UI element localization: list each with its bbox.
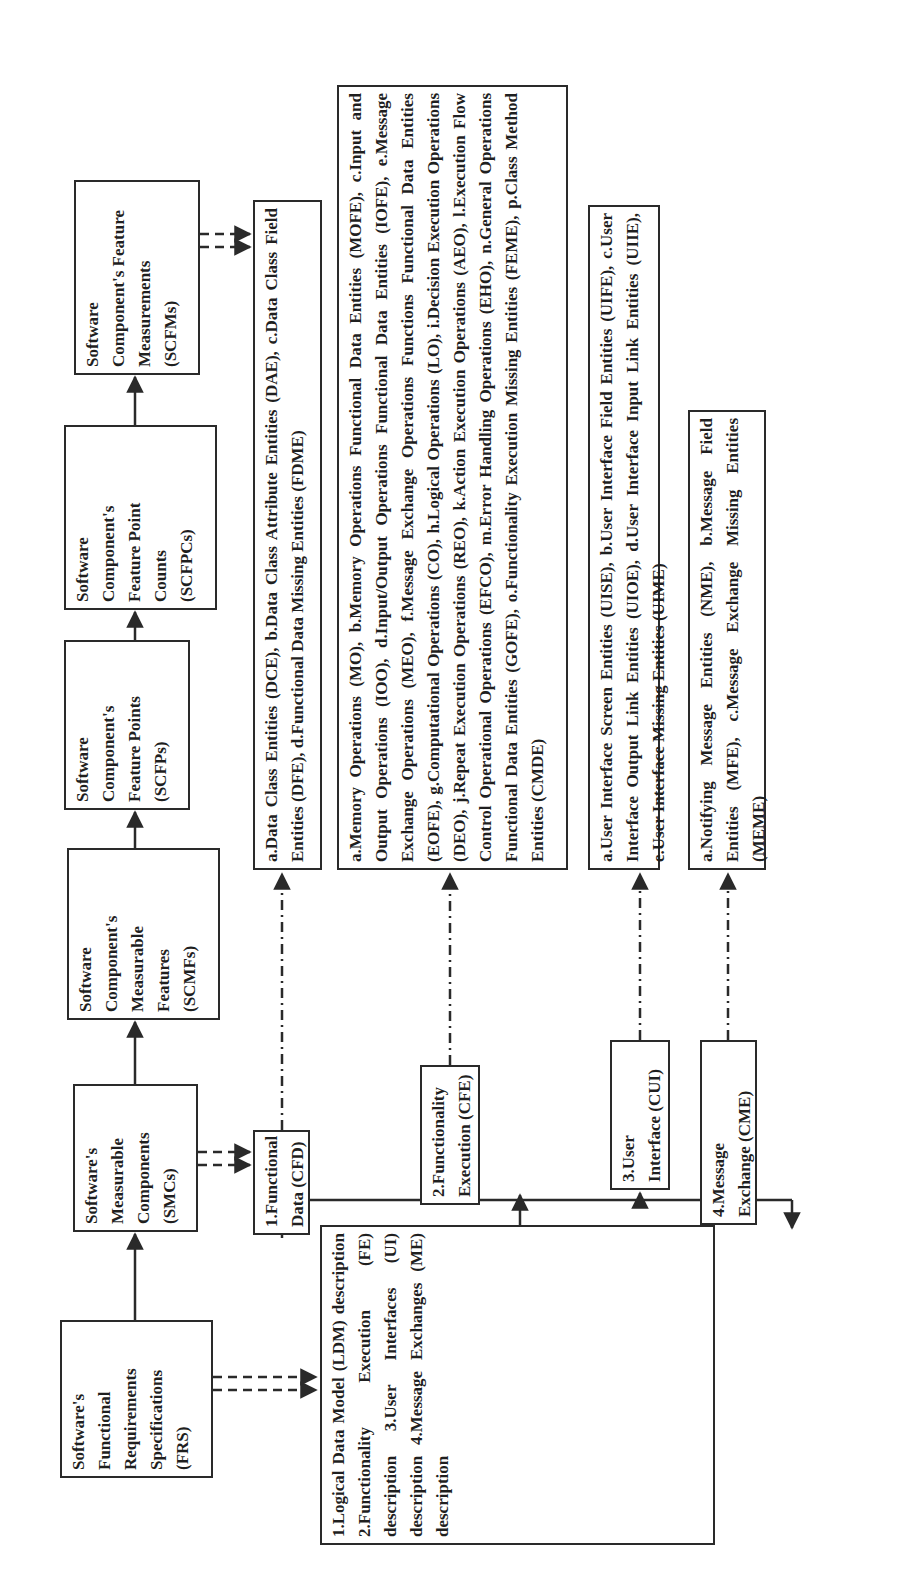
cfe-entities-box: a.Memory Operations (MO), b.Memory Opera… [337,85,568,870]
scmfs-line: Software [73,856,99,1012]
cfe-entities-text: a.Memory Operations (MO), b.Memory Opera… [346,93,547,862]
scfpcs-box: Software Component's Feature Point Count… [64,425,217,610]
scfps-line: (SCFPs) [148,648,174,802]
cfe-line: Execution (CFE) [452,1073,478,1197]
scfpcs-line: Counts [148,433,174,602]
scfps-line: Feature Points [122,648,148,802]
scmfs-line: (SCMFs) [177,856,203,1012]
scfps-line: Component's [96,648,122,802]
scmfs-box: Software Component's Measurable Features… [67,848,220,1020]
scfpcs-line: Component's [96,433,122,602]
smcs-line: Measurable [105,1092,131,1224]
cfd-entities-box: a.Data Class Entities (DCE), b.Data Clas… [253,200,322,870]
scfps-line: Software [70,648,96,802]
scfpcs-line: Feature Point [122,433,148,602]
cfd-box: 1.Functional Data (CFD) [253,1130,310,1235]
cui-box: 3.User Interface (CUI) [610,1040,670,1190]
smcs-line: Software's [79,1092,105,1224]
frs-line: (FRS) [170,1328,196,1470]
scfps-box: Software Component's Feature Points (SCF… [64,640,190,810]
cfd-line: 1.Functional [259,1138,285,1227]
frs-line: Requirements [118,1328,144,1470]
scfms-line: (SCFMs) [158,188,184,367]
frs-contents-box: 1.Logical Data Model (LDM) description 2… [320,1225,715,1545]
scfms-box: Software Component's Feature Measurement… [74,180,200,375]
frs-line: Specifications [144,1328,170,1470]
scfms-line: Measurements [132,188,158,367]
cme-line: Exchange (CME) [732,1048,758,1217]
frs-line: Software's [66,1328,92,1470]
cui-entities-box: a.User Interface Screen Entities (UISE),… [588,205,660,870]
scfpcs-line: (SCFPCs) [174,433,200,602]
scfpcs-line: Software [70,433,96,602]
cui-line: 3.User [616,1048,642,1182]
diagram-canvas: Software's Functional Requirements Speci… [0,0,904,1595]
scmfs-line: Features [151,856,177,1012]
scmfs-line: Component's [99,856,125,1012]
smcs-line: Components [131,1092,157,1224]
scfms-line: Software [80,188,106,367]
cme-line: 4.Message [706,1048,732,1217]
frs-line: Functional [92,1328,118,1470]
cfe-box: 2.Functionality Execution (CFE) [420,1065,480,1205]
cme-box: 4.Message Exchange (CME) [700,1040,757,1225]
cui-line: Interface (CUI) [642,1048,668,1182]
smcs-line: (SMCs) [157,1092,183,1224]
cme-entities-text: a.Notifying Message Entities (NME), b.Me… [697,418,768,862]
frs-box: Software's Functional Requirements Speci… [60,1320,213,1478]
cfd-entities-text: a.Data Class Entities (DCE), b.Data Clas… [262,208,307,862]
cui-entities-text: a.User Interface Screen Entities (UISE),… [597,213,668,862]
cme-entities-box: a.Notifying Message Entities (NME), b.Me… [688,410,766,870]
smcs-box: Software's Measurable Components (SMCs) [73,1084,198,1232]
cfd-line: Data (CFD) [285,1138,311,1227]
frs-contents-text: 1.Logical Data Model (LDM) description 2… [329,1233,452,1537]
cfe-line: 2.Functionality [426,1073,452,1197]
scmfs-line: Measurable [125,856,151,1012]
scfms-line: Component's Feature [106,188,132,367]
